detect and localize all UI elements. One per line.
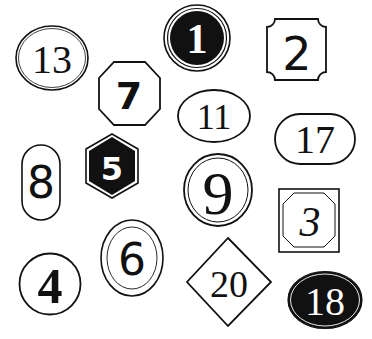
badge-number: 2 — [282, 27, 311, 81]
badge-4: 4 — [20, 254, 81, 315]
badge-3: 3 — [279, 189, 339, 252]
badge-number: 7 — [116, 74, 142, 118]
badge-number: 11 — [197, 97, 232, 137]
badge-number: 13 — [32, 37, 72, 82]
badge-number: 20 — [210, 263, 248, 305]
badge-number: 6 — [118, 234, 146, 285]
badge-18: 18 — [288, 272, 362, 329]
badge-number: 17 — [295, 117, 335, 162]
badge-number: 3 — [299, 199, 321, 245]
badge-number: 4 — [38, 258, 63, 314]
badge-20: 20 — [187, 238, 271, 326]
badge-11: 11 — [178, 90, 250, 142]
badge-5: 5 — [86, 134, 138, 198]
badge-7: 7 — [99, 62, 160, 125]
badge-2: 2 — [267, 19, 326, 81]
badge-13: 13 — [16, 26, 88, 90]
badge-1: 1 — [164, 5, 230, 71]
badge-number: 18 — [305, 279, 345, 324]
badge-number: 5 — [101, 150, 123, 188]
badge-6: 6 — [101, 220, 163, 296]
badge-number: 9 — [203, 159, 234, 227]
badge-number: 8 — [27, 157, 55, 208]
badge-number: 1 — [187, 16, 208, 62]
badge-9: 9 — [184, 154, 252, 227]
badge-sheet: 13 1 2 7 11 17 8 5 9 — [0, 0, 372, 339]
badge-8: 8 — [22, 145, 60, 220]
badge-17: 17 — [275, 114, 355, 164]
